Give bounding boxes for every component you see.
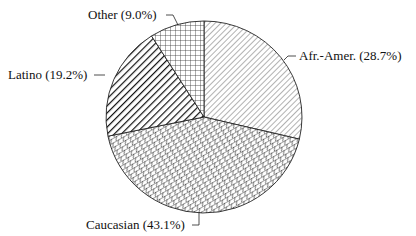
slice-label-latino: Latino (19.2%) — [8, 67, 87, 82]
slice-label-afr-amer: Afr.-Amer. (28.7%) — [299, 48, 402, 63]
leader-line-other — [166, 15, 178, 25]
slice-label-other: Other (9.0%) — [88, 7, 157, 22]
leader-line-caucasian — [192, 212, 199, 225]
pie-chart: Other (9.0%) Afr.-Amer. (28.7%) Latino (… — [0, 0, 416, 236]
pie-slices — [106, 21, 302, 213]
leader-line-afr-amer — [284, 56, 296, 60]
slice-label-caucasian: Caucasian (43.1%) — [86, 217, 185, 232]
